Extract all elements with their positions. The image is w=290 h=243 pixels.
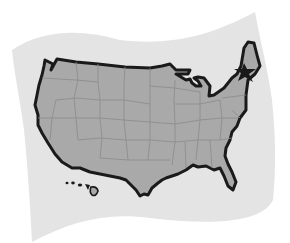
map-illustration: United States map bbox=[0, 0, 290, 243]
